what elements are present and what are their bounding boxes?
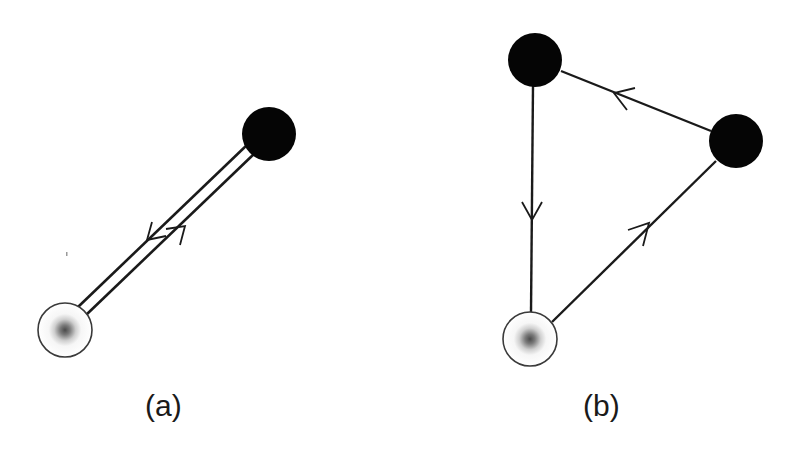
edge-line: [78, 144, 248, 307]
white-node-icon: [38, 303, 92, 357]
diagram-a: [38, 107, 296, 357]
white-node-icon: [503, 312, 557, 366]
edge-line: [86, 153, 255, 315]
diagram-canvas: [0, 0, 798, 456]
edge-b-right-to-top: [561, 71, 711, 131]
edge-a-black-to-white: [78, 144, 248, 307]
edge-a-white-to-black: [86, 153, 255, 315]
edge-line: [531, 86, 533, 312]
edge-b-top-to-white: [522, 86, 542, 312]
caption-a: (a): [145, 391, 182, 421]
node-b-black-right: [709, 114, 763, 168]
node-a-white: [38, 303, 92, 357]
scan-artifact: [66, 252, 68, 256]
node-a-black: [242, 107, 296, 161]
black-node-icon: [709, 114, 763, 168]
edge-line: [561, 71, 711, 131]
edge-b-white-to-right: [552, 161, 716, 322]
black-node-icon: [242, 107, 296, 161]
node-b-black-top: [508, 33, 562, 87]
node-b-white: [503, 312, 557, 366]
caption-b: (b): [583, 391, 620, 421]
diagram-b: [503, 33, 763, 366]
black-node-icon: [508, 33, 562, 87]
arrow-up-right-icon: [628, 223, 649, 246]
edge-line: [552, 161, 716, 322]
